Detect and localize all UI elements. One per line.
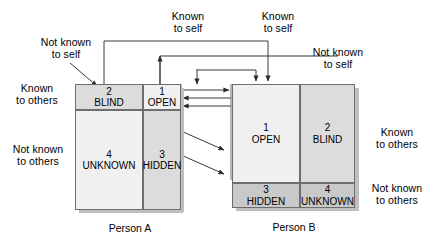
person-b-quadrant-unknown-name: UNKNOWN	[301, 196, 354, 208]
person-a-quadrant-blind-number: 2	[106, 86, 112, 98]
person-b-quadrant-open-name: OPEN	[252, 134, 280, 146]
label-known-to-self-a: Known to self	[152, 10, 224, 34]
person-b-quadrant-blind-number: 2	[325, 122, 331, 134]
person-b-caption: Person B	[249, 221, 339, 233]
person-a-quadrant-blind: 2 BLIND	[75, 84, 143, 110]
person-a-quadrant-hidden: 3 HIDDEN	[143, 110, 181, 210]
person-b-quadrant-unknown: 4 UNKNOWN	[300, 183, 355, 208]
label-known-to-self-b: Known to self	[242, 10, 314, 34]
person-b-quadrant-hidden-number: 3	[263, 184, 269, 196]
person-b-quadrant-hidden-name: HIDDEN	[247, 196, 285, 208]
label-not-known-to-self-a: Not known to self	[24, 36, 108, 60]
label-not-known-to-others-left: Not known to others	[0, 143, 76, 167]
person-b-quadrant-open: 1 OPEN	[232, 84, 300, 183]
person-b-shadow-right	[355, 88, 359, 210]
label-known-to-others-right: Known to others	[361, 126, 433, 150]
johari-window-diagram: Known to self Known to self Not known to…	[0, 0, 435, 244]
arrow-diagonal-1	[181, 131, 224, 150]
person-b-quadrant-open-number: 1	[263, 122, 269, 134]
person-a-quadrant-open-number: 1	[159, 86, 165, 98]
label-known-to-others-left: Known to others	[2, 82, 72, 106]
person-b-quadrant-blind-name: BLIND	[313, 134, 342, 146]
person-a-quadrant-unknown: 4 UNKNOWN	[75, 110, 143, 210]
person-a-quadrant-unknown-name: UNKNOWN	[83, 160, 136, 172]
arrow-diagonal-2	[181, 155, 224, 174]
bracket-outer	[104, 41, 268, 86]
label-not-known-to-others-right: Not known to others	[357, 182, 435, 206]
person-a-quadrant-open: 1 OPEN	[143, 84, 181, 110]
person-a-quadrant-hidden-name: HIDDEN	[143, 160, 181, 172]
label-not-known-to-self-b: Not known to self	[296, 46, 380, 70]
person-a-quadrant-unknown-number: 4	[106, 149, 112, 161]
person-a-quadrant-blind-name: BLIND	[94, 97, 123, 109]
person-b-quadrant-hidden: 3 HIDDEN	[232, 183, 300, 208]
person-a-quadrant-open-name: OPEN	[148, 97, 176, 109]
person-a-caption: Person A	[85, 222, 175, 234]
pointer-not-known-self-a	[70, 63, 97, 86]
person-b-quadrant-unknown-number: 4	[325, 184, 331, 196]
person-b-quadrant-blind: 2 BLIND	[300, 84, 355, 183]
person-a-quadrant-hidden-number: 3	[159, 149, 165, 161]
